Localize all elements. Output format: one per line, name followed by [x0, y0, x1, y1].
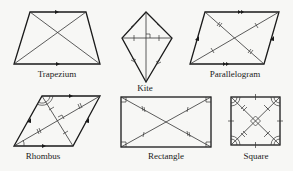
square-shape [228, 94, 283, 148]
trapezium-label: Trapezium [38, 69, 77, 79]
square-label: Square [244, 151, 269, 161]
parallel-arrow-icon [238, 10, 241, 14]
parallel-arrow-icon [42, 144, 46, 148]
rectangle-label: Rectangle [148, 151, 184, 161]
parallel-arrow-icon [69, 94, 73, 98]
parallel-arrow-icon [195, 36, 199, 41]
parallel-arrow-icon [241, 10, 244, 14]
kite-shape [122, 12, 172, 82]
parallel-arrow-icon [226, 62, 229, 66]
kite-label: Kite [137, 83, 153, 93]
trapezium-shape [14, 10, 100, 66]
rhombus-shape [14, 94, 100, 148]
parallel-arrow-icon [56, 62, 60, 66]
parallelogram-shape [190, 10, 279, 66]
rectangle-shape [121, 97, 211, 147]
parallel-arrow-icon [55, 10, 59, 14]
parallel-arrow-icon [223, 62, 226, 66]
parallelogram-label: Parallelogram [210, 69, 260, 79]
right-angle-icon [146, 34, 150, 38]
rhombus-label: Rhombus [26, 151, 61, 161]
